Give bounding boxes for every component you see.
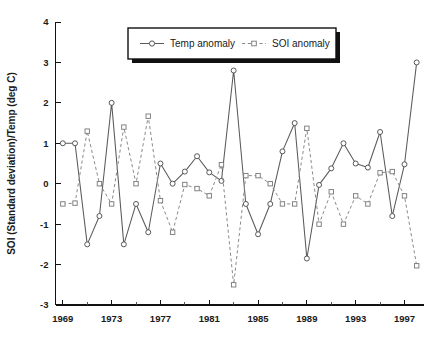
- data-point-marker: [121, 242, 126, 247]
- data-point-marker: [341, 141, 346, 146]
- data-point-marker: [366, 202, 370, 206]
- data-point-marker: [256, 173, 260, 177]
- data-point-marker: [268, 182, 272, 186]
- data-point-marker: [170, 181, 175, 186]
- data-point-marker: [146, 230, 151, 235]
- data-point-marker: [73, 201, 77, 205]
- y-tick-label: -3: [40, 299, 48, 310]
- data-point-marker: [219, 163, 223, 167]
- data-point-marker: [378, 171, 382, 175]
- data-point-marker: [207, 170, 212, 175]
- data-point-marker: [390, 214, 395, 219]
- data-point-marker: [414, 264, 418, 268]
- data-point-marker: [317, 222, 321, 226]
- legend-label: Temp anomaly: [170, 38, 235, 49]
- data-point-marker: [243, 201, 248, 206]
- x-tick-label: 1977: [150, 313, 171, 324]
- x-tick-label: 1993: [345, 313, 366, 324]
- data-point-marker: [280, 149, 285, 154]
- y-tick-label: 2: [43, 97, 48, 108]
- data-point-marker: [378, 129, 383, 134]
- data-point-marker: [85, 242, 90, 247]
- data-point-marker: [256, 232, 261, 237]
- y-axis-ticks: 43210-1-2-3: [40, 16, 60, 310]
- data-point-marker: [292, 202, 296, 206]
- y-tick-label: 4: [43, 16, 49, 27]
- data-point-marker: [317, 182, 322, 187]
- series-temp-anomaly: [60, 60, 419, 261]
- data-point-marker: [292, 121, 297, 126]
- legend-marker: [252, 41, 257, 46]
- data-point-marker: [414, 60, 419, 65]
- y-tick-label: -1: [40, 219, 49, 230]
- data-point-marker: [97, 182, 101, 186]
- x-tick-label: 1981: [199, 313, 221, 324]
- y-tick-label: 0: [43, 178, 48, 189]
- chart-figure: 43210-1-2-319691973197719811985198919931…: [0, 0, 434, 347]
- data-point-marker: [231, 283, 235, 287]
- y-tick-label: 1: [43, 138, 49, 149]
- data-point-marker: [207, 194, 211, 198]
- data-point-marker: [353, 194, 357, 198]
- data-point-marker: [183, 182, 187, 186]
- data-point-marker: [122, 125, 126, 129]
- data-point-marker: [365, 165, 370, 170]
- data-point-marker: [329, 166, 334, 171]
- data-point-marker: [195, 154, 200, 159]
- legend-label: SOI anomaly: [272, 38, 330, 49]
- y-tick-label: -2: [40, 259, 48, 270]
- data-point-marker: [353, 161, 358, 166]
- data-point-marker: [231, 68, 236, 73]
- data-point-marker: [170, 230, 174, 234]
- data-point-marker: [305, 126, 309, 130]
- data-point-marker: [390, 169, 394, 173]
- y-axis-title: SOI (Standard deviation)/Temp (deg C): [6, 72, 17, 255]
- x-axis-ticks: 19691973197719811985198919931997: [52, 300, 415, 324]
- x-tick-label: 1969: [52, 313, 73, 324]
- data-point-marker: [195, 186, 199, 190]
- data-point-marker: [268, 201, 273, 206]
- x-tick-label: 1973: [101, 313, 122, 324]
- x-tick-label: 1985: [247, 313, 269, 324]
- data-point-marker: [158, 161, 163, 166]
- data-point-marker: [60, 141, 65, 146]
- data-point-marker: [134, 182, 138, 186]
- data-point-marker: [182, 169, 187, 174]
- y-tick-label: 3: [43, 57, 48, 68]
- data-point-marker: [146, 114, 150, 118]
- x-tick-label: 1989: [296, 313, 317, 324]
- data-point-marker: [109, 100, 114, 105]
- data-point-marker: [97, 214, 102, 219]
- data-point-marker: [402, 162, 407, 167]
- data-point-marker: [304, 256, 309, 261]
- clipped-caption-text: [0, 333, 434, 347]
- data-point-marker: [158, 198, 162, 202]
- data-point-marker: [85, 129, 89, 133]
- line-chart: 43210-1-2-319691973197719811985198919931…: [0, 0, 434, 347]
- data-point-marker: [134, 201, 139, 206]
- data-point-marker: [61, 202, 65, 206]
- data-point-marker: [109, 202, 113, 206]
- chart-legend: Temp anomalySOI anomaly: [128, 28, 340, 63]
- data-point-marker: [73, 141, 78, 146]
- data-point-marker: [280, 202, 284, 206]
- data-point-marker: [341, 222, 345, 226]
- data-point-marker: [244, 173, 248, 177]
- data-point-marker: [402, 194, 406, 198]
- legend-marker: [149, 41, 154, 46]
- data-point-marker: [329, 190, 333, 194]
- x-tick-label: 1997: [394, 313, 415, 324]
